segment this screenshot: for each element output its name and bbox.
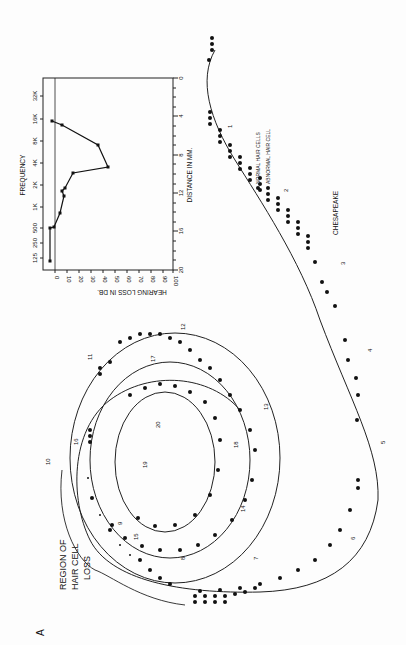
figure: 125 250 500 1K 2K 4K 8K 16K 32K FREQUENC… xyxy=(0,0,406,645)
dist-tick-8: 8 xyxy=(178,153,184,157)
freq-tick-500: 500 xyxy=(32,222,38,233)
marker-9: 9 xyxy=(117,521,123,525)
db-tick-40: 40 xyxy=(102,276,108,283)
marker-5: 5 xyxy=(380,440,386,444)
marker-4: 4 xyxy=(367,348,373,352)
hearing-loss-axis: 0 10 20 30 40 50 60 70 80 90 100 HEARING… xyxy=(54,270,179,296)
marker-16: 16 xyxy=(73,438,79,445)
marker-3: 3 xyxy=(340,261,346,265)
marker-2: 2 xyxy=(283,188,289,192)
db-tick-60: 60 xyxy=(126,276,132,283)
chart-frame xyxy=(43,78,173,270)
dist-tick-0: 0 xyxy=(178,76,184,80)
dist-tick-4: 4 xyxy=(178,114,184,118)
marker-13: 13 xyxy=(263,403,269,410)
marker-10: 10 xyxy=(45,458,51,465)
region-label-line-1: REGION OF xyxy=(58,539,68,590)
db-tick-10: 10 xyxy=(66,276,72,283)
db-tick-80: 80 xyxy=(150,276,156,283)
marker-12: 12 xyxy=(180,323,186,330)
dist-tick-12: 12 xyxy=(178,189,184,196)
panel-label: A xyxy=(35,629,46,636)
marker-18: 18 xyxy=(233,441,239,448)
marker-11: 11 xyxy=(87,353,93,360)
freq-tick-16k: 16K xyxy=(32,114,38,125)
hair-cell-dots xyxy=(87,36,360,604)
region-label-line-2: HAIR CELL xyxy=(70,543,80,590)
legend: NORMAL HAIR CELLS ABNORMAL HAIR CELL xyxy=(255,129,271,190)
marker-17: 17 xyxy=(150,355,156,362)
specimen-name: CHESAPEAKE xyxy=(332,190,339,235)
x-axis-label: FREQUENCY xyxy=(19,154,27,195)
marker-20: 20 xyxy=(155,421,161,428)
db-tick-70: 70 xyxy=(138,276,144,283)
dist-tick-20: 20 xyxy=(178,266,184,273)
marker-14: 14 xyxy=(240,505,246,512)
marker-6: 6 xyxy=(350,536,356,540)
audiogram-points xyxy=(49,120,110,263)
marker-1: 1 xyxy=(227,124,233,128)
freq-tick-125: 125 xyxy=(32,252,38,263)
spiral-number-markers: 1 2 3 4 5 6 7 8 9 10 11 12 13 14 15 16 1… xyxy=(45,124,386,560)
db-tick-0: 0 xyxy=(54,276,60,280)
legend-abnormal-label: ABNORMAL HAIR CELL xyxy=(265,129,271,184)
cochlear-spiral xyxy=(70,50,378,592)
db-tick-50: 50 xyxy=(114,276,120,283)
freq-tick-8k: 8K xyxy=(32,137,38,144)
marker-7: 7 xyxy=(253,556,259,560)
db-tick-100: 100 xyxy=(173,276,179,287)
audiogram-line xyxy=(50,121,108,261)
region-label-line-3: LOSS xyxy=(82,556,92,580)
dist-tick-16: 16 xyxy=(178,227,184,234)
db-tick-30: 30 xyxy=(90,276,96,283)
x2-axis-label: DISTANCE IN MM. xyxy=(186,147,193,202)
frequency-axis: 125 250 500 1K 2K 4K 8K 16K 32K FREQUENC… xyxy=(19,91,43,263)
db-tick-90: 90 xyxy=(162,276,168,283)
db-tick-20: 20 xyxy=(78,276,84,283)
y-axis-label: HEARING LOSS IN DB. xyxy=(97,289,167,296)
freq-tick-32k: 32K xyxy=(32,91,38,102)
freq-tick-250: 250 xyxy=(32,237,38,248)
marker-15: 15 xyxy=(133,533,139,540)
freq-tick-1k: 1K xyxy=(32,203,38,210)
marker-19: 19 xyxy=(142,461,148,468)
distance-axis: 20 16 12 8 4 0 DISTANCE IN MM. xyxy=(173,76,193,274)
freq-tick-2k: 2K xyxy=(32,181,38,188)
freq-tick-4k: 4K xyxy=(32,159,38,166)
audiogram-chart: 125 250 500 1K 2K 4K 8K 16K 32K FREQUENC… xyxy=(19,76,193,296)
